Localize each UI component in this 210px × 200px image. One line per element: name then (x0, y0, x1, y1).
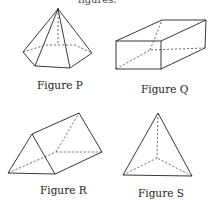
figures-diagram (0, 0, 210, 200)
figure-q-label: Figure Q (141, 83, 188, 95)
figure-p-label: Figure P (37, 79, 83, 91)
apex-dot (57, 8, 59, 10)
figure-r-triangular-prism (8, 113, 102, 174)
figure-r-label: Figure R (40, 184, 87, 196)
figure-p-hexagonal-pyramid (23, 8, 92, 68)
figure-s-triangular-pyramid (123, 113, 192, 176)
figure-q-rectangular-prism (116, 20, 206, 69)
figure-s-label: Figure S (138, 187, 184, 199)
